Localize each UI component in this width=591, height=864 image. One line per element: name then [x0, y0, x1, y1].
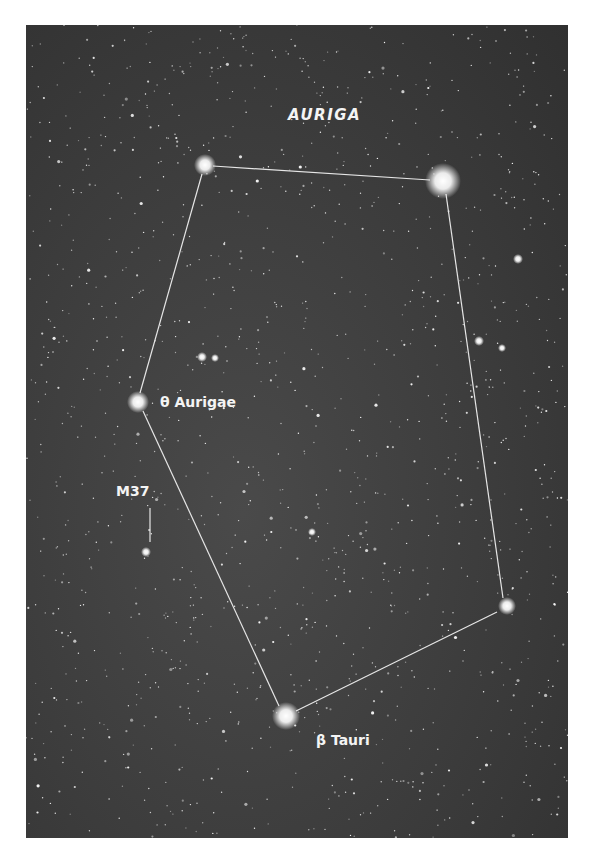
star-top-left — [194, 154, 216, 176]
constellation-lines — [140, 166, 503, 711]
m37-label: M37 — [116, 483, 149, 499]
constellation-chart — [26, 25, 568, 838]
star-capella — [425, 163, 461, 199]
beta-tauri-label: β Tauri — [316, 732, 370, 748]
theta-aurigae-label: θ Aurigae — [160, 394, 236, 410]
star-theta-aurigae — [127, 391, 149, 413]
cluster-m37 — [141, 547, 151, 557]
bright-stars — [127, 154, 523, 730]
star-right — [498, 597, 516, 615]
constellation-title: AURIGA — [288, 106, 361, 124]
star-beta-tauri — [272, 702, 300, 730]
star-field-photo: AURIGA θ Aurigae M37 β Tauri — [26, 25, 568, 838]
